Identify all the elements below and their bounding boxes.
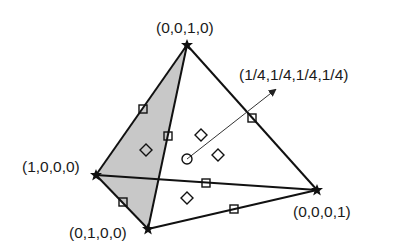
diamond-marker: [212, 149, 224, 161]
edge-bottom-right: [148, 190, 317, 229]
center-arrow: [187, 90, 275, 159]
shaded-face: [96, 45, 187, 229]
simplex-diagram: (0,0,1,0) (1,0,0,0) (0,1,0,0) (0,0,0,1) …: [0, 0, 399, 252]
vertex-label-bottom: (0,1,0,0): [69, 224, 127, 241]
vertex-label-left: (1,0,0,0): [22, 158, 80, 175]
diamond-marker: [195, 129, 207, 141]
vertex-label-top: (0,0,1,0): [156, 19, 214, 36]
center-label: (1/4,1/4,1/4,1/4): [239, 66, 348, 83]
vertex-label-right: (0,0,0,1): [293, 203, 351, 220]
diamond-marker: [181, 192, 193, 204]
